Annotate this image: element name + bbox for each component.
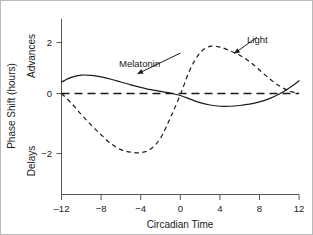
x-tick-marks [62,195,300,201]
x-tick-label-minus-8: −8 [96,203,107,214]
y-tick-label-2: 2 [47,37,52,48]
series-line-light [62,46,300,153]
x-tick-label-minus-12: ‒12 [54,203,70,214]
chart-figure: 2 0 −2 ‒12 −8 −4 0 4 8 12 Circadian Time… [0,0,313,235]
y-axis-title-advances: Advances [26,34,37,78]
x-tick-labels: ‒12 −8 −4 0 4 8 12 [54,203,305,214]
phase-response-curve-chart: 2 0 −2 ‒12 −8 −4 0 4 8 12 Circadian Time… [1,1,313,235]
y-tick-marks [57,43,62,154]
series-line-melatonin [62,75,300,106]
x-tick-label-0: 0 [178,203,183,214]
annotation-melatonin: Melatonin [119,53,180,74]
annotation-light: Light [234,34,268,54]
x-tick-label-minus-4: −4 [135,203,146,214]
annotation-label-melatonin: Melatonin [119,58,160,69]
x-tick-label-4: 4 [217,203,222,214]
y-axis-title-delays: Delays [26,146,37,177]
x-tick-label-12: 12 [294,203,305,214]
x-tick-label-8: 8 [257,203,262,214]
y-tick-labels: 2 0 −2 [41,37,52,159]
y-axis-title: Phase Shift (hours) [6,63,17,149]
x-axis-title: Circadian Time [147,219,214,230]
y-tick-label-minus-2: −2 [41,148,52,159]
light-arrowhead-icon [234,48,240,53]
y-tick-label-0: 0 [47,88,52,99]
annotation-label-light: Light [247,34,268,45]
axes-group [62,19,300,195]
